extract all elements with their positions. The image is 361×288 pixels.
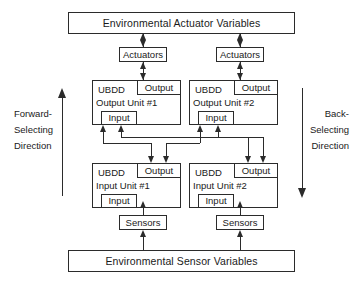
- forward-label-line-2: Selecting: [14, 122, 53, 138]
- wire-sensors-to-inputunit-left: [143, 208, 144, 215]
- input-unit-2-input-port-label: Input: [205, 196, 226, 206]
- arrowhead-down-actuators-left-top: [140, 40, 146, 47]
- input-unit-1-title: Input Unit #1: [96, 181, 150, 191]
- sensors-right-label: Sensors: [223, 218, 258, 228]
- input-unit-1-input-port: Input: [101, 194, 137, 208]
- input-unit-1-input-port-label: Input: [108, 196, 129, 206]
- forward-direction-arrow-shaft: [62, 96, 63, 196]
- back-label-line-2: Selecting: [310, 122, 349, 138]
- sensors-box-left: Sensors: [119, 215, 167, 230]
- output-unit-1-input-port: Input: [101, 111, 137, 125]
- ubdd-architecture-diagram: Environmental Actuator Variables Actuato…: [0, 0, 361, 288]
- wire-sensors-to-inputunit-right: [240, 208, 241, 215]
- output-unit-1-ubdd-label: UBDD: [98, 85, 125, 95]
- environmental-actuator-variables-label: Environmental Actuator Variables: [103, 18, 261, 29]
- output-unit-1-title: Output Unit #1: [96, 98, 157, 108]
- arrowhead-up-actuators-left-top: [140, 33, 146, 40]
- back-label-line-3: Direction: [310, 138, 349, 154]
- ubdd-input-unit-2: UBDD Output Input Unit #2 Input: [189, 163, 278, 208]
- output-unit-2-output-port: Output: [234, 80, 278, 95]
- input-unit-1-output-port-label: Output: [145, 166, 174, 176]
- wire-sensorbar-to-sensors-left: [143, 237, 144, 250]
- environmental-sensor-variables-box: Environmental Sensor Variables: [68, 250, 295, 272]
- output-unit-2-input-port: Input: [198, 111, 234, 125]
- wire-forward-iu1-to-ou1-drop: [151, 143, 152, 157]
- ubdd-output-unit-1: UBDD Output Output Unit #1 Input: [92, 80, 181, 125]
- ubdd-output-unit-2: UBDD Output Output Unit #2 Input: [189, 80, 278, 125]
- output-unit-1-input-port-label: Input: [108, 113, 129, 123]
- ubdd-input-unit-1: UBDD Output Input Unit #1 Input: [92, 163, 181, 208]
- arrowhead-up-actuators-right-bottom: [237, 62, 243, 69]
- arrowhead-up-into-sensors-left: [140, 230, 146, 237]
- wire-forward-iu1-to-ou2-run: [166, 143, 200, 144]
- actuators-box-right: Actuators: [216, 47, 264, 62]
- arrowhead-down-actuators-left-bottom: [140, 73, 146, 80]
- wire-forward-iu1-to-ou2-drop: [166, 143, 167, 157]
- arrowhead-up-actuators-right-top: [237, 33, 243, 40]
- input-unit-2-title: Input Unit #2: [193, 181, 247, 191]
- arrowhead-down-actuators-right-top: [237, 40, 243, 47]
- input-unit-2-output-port: Output: [234, 163, 278, 178]
- back-label-line-1: Back-: [310, 106, 349, 122]
- sensors-left-label: Sensors: [126, 218, 161, 228]
- output-unit-2-output-port-label: Output: [242, 83, 271, 93]
- wire-forward-iu1-to-ou1-riser: [103, 131, 104, 143]
- output-unit-1-output-port: Output: [137, 80, 181, 95]
- wire-sensorbar-to-sensors-right: [240, 237, 241, 250]
- input-unit-1-ubdd-label: UBDD: [98, 168, 125, 178]
- environmental-sensor-variables-label: Environmental Sensor Variables: [105, 256, 257, 267]
- forward-label-line-3: Direction: [14, 138, 53, 154]
- arrowhead-up-actuators-left-bottom: [140, 62, 146, 69]
- sensors-box-right: Sensors: [216, 215, 264, 230]
- arrowhead-up-into-input-unit-1-input: [140, 201, 146, 208]
- wire-forward-iu2-to-ou2-run: [218, 137, 263, 138]
- arrowhead-down-into-input-unit-1-output-a: [148, 156, 154, 163]
- arrowhead-up-into-input-unit-2-input: [237, 201, 243, 208]
- input-unit-1-output-port: Output: [137, 163, 181, 178]
- actuators-box-left: Actuators: [119, 47, 167, 62]
- forward-label-line-1: Forward-: [14, 106, 53, 122]
- forward-direction-arrowhead-up-icon: [58, 88, 66, 98]
- arrowhead-down-actuators-right-bottom: [237, 73, 243, 80]
- arrowhead-down-into-input-unit-2-output-b: [260, 156, 266, 163]
- output-unit-2-input-port-label: Input: [205, 113, 226, 123]
- wire-forward-iu2-to-ou1-drop: [248, 137, 249, 157]
- actuators-left-label: Actuators: [123, 50, 163, 60]
- output-unit-2-ubdd-label: UBDD: [195, 85, 222, 95]
- output-unit-2-title: Output Unit #2: [193, 98, 254, 108]
- back-direction-arrow-shaft: [302, 88, 303, 188]
- arrowhead-up-into-sensors-right: [237, 230, 243, 237]
- back-direction-arrowhead-down-icon: [298, 188, 306, 198]
- wire-forward-iu2-to-ou2-drop: [263, 137, 264, 157]
- input-unit-2-output-port-label: Output: [242, 166, 271, 176]
- arrowhead-down-into-input-unit-1-output-b: [163, 156, 169, 163]
- forward-selecting-direction-label: Forward- Selecting Direction: [14, 106, 53, 154]
- wire-forward-iu1-to-ou2-riser: [200, 131, 201, 143]
- input-unit-2-input-port: Input: [198, 194, 234, 208]
- environmental-actuator-variables-box: Environmental Actuator Variables: [68, 12, 295, 34]
- back-selecting-direction-label: Back- Selecting Direction: [310, 106, 349, 154]
- wire-forward-iu1-to-ou1-run: [103, 143, 151, 144]
- actuators-right-label: Actuators: [220, 50, 260, 60]
- arrowhead-down-into-input-unit-2-output-a: [245, 156, 251, 163]
- input-unit-2-ubdd-label: UBDD: [195, 168, 222, 178]
- output-unit-1-output-port-label: Output: [145, 83, 174, 93]
